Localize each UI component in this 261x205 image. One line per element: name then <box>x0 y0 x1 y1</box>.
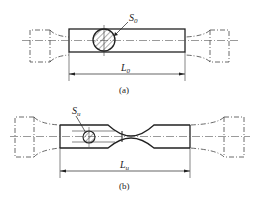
label-l0: L0 <box>120 62 131 75</box>
specimen-a: S0 L0 (a) <box>22 12 238 95</box>
right-grip-b <box>190 117 244 157</box>
left-grip-a <box>30 30 69 62</box>
right-grip-a <box>185 30 229 62</box>
caption-a: (a) <box>119 85 129 95</box>
label-su: Su <box>72 105 81 118</box>
caption-b: (b) <box>119 181 130 191</box>
label-lu: Lu <box>119 159 130 172</box>
label-s0: S0 <box>129 12 138 25</box>
left-grip-b <box>15 117 60 157</box>
specimen-b: Su Lu (b) <box>10 105 250 191</box>
specimen-diagram: S0 L0 (a) Su Lu (b) <box>0 0 261 205</box>
